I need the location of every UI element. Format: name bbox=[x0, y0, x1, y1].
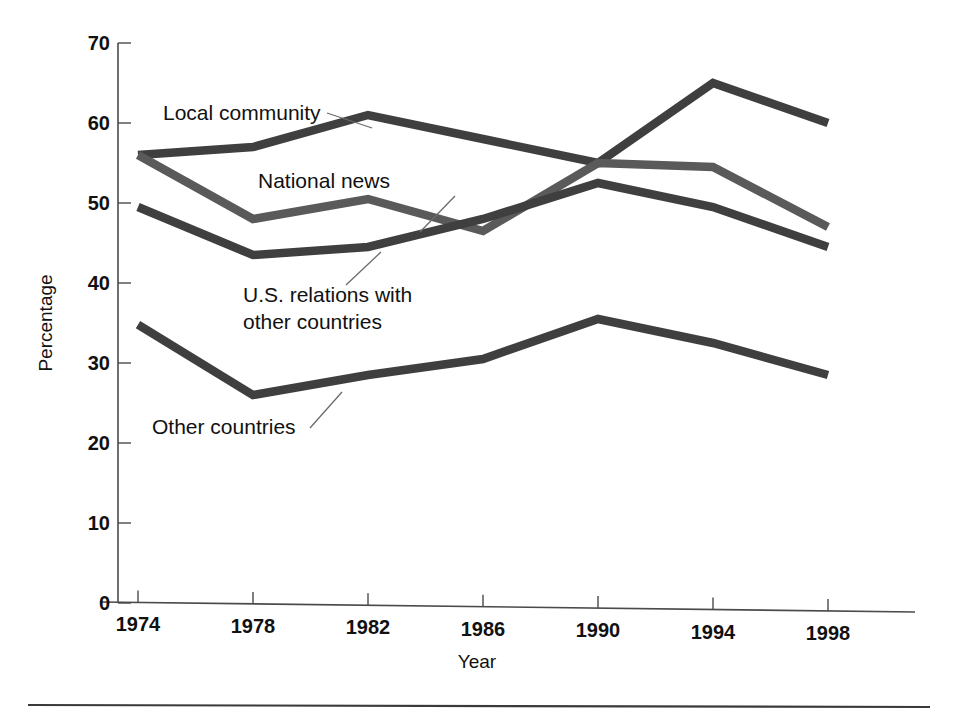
y-tick-label: 70 bbox=[88, 32, 110, 54]
chart-series-group: Local communityNational newsU.S. relatio… bbox=[138, 83, 828, 395]
x-tick-label: 1994 bbox=[691, 621, 736, 643]
x-tick-label: 1990 bbox=[576, 619, 621, 641]
y-tick-label: 60 bbox=[88, 112, 110, 134]
x-tick-label: 1974 bbox=[116, 613, 161, 635]
y-tick-label: 0 bbox=[99, 592, 110, 614]
annotation-leader-other-countries bbox=[310, 392, 342, 428]
line-chart: 0102030405060701974197819821986199019941… bbox=[0, 0, 955, 726]
y-axis-title: Percentage bbox=[35, 274, 56, 371]
y-tick-label: 10 bbox=[88, 512, 110, 534]
footer-divider-rule bbox=[28, 705, 930, 707]
figure-container: 0102030405060701974197819821986199019941… bbox=[0, 0, 955, 726]
y-tick-label: 20 bbox=[88, 432, 110, 454]
annotation-label-local-community: Local community bbox=[163, 101, 321, 124]
x-tick-label: 1982 bbox=[346, 616, 391, 638]
series-line-other-countries: Other countries bbox=[138, 319, 828, 395]
y-tick-label: 40 bbox=[88, 272, 110, 294]
x-tick-label: 1986 bbox=[461, 618, 506, 640]
annotation-label-u-s-relations-with-other-countries: U.S. relations withother countries bbox=[243, 283, 412, 333]
x-tick-label: 1998 bbox=[806, 622, 851, 644]
y-tick-label: 30 bbox=[88, 352, 110, 374]
x-tick-label: 1978 bbox=[231, 615, 276, 637]
annotation-label-other-countries: Other countries bbox=[152, 415, 296, 438]
annotation-leader-u-s-relations-with-other-countries bbox=[346, 252, 381, 285]
x-axis-title: Year bbox=[458, 651, 497, 672]
x-axis-line bbox=[100, 602, 915, 612]
series-line-u-s-relations-with-other-countries: U.S. relations with other countries bbox=[138, 183, 828, 255]
annotation-label-national-news: National news bbox=[258, 169, 390, 192]
y-tick-label: 50 bbox=[88, 192, 110, 214]
